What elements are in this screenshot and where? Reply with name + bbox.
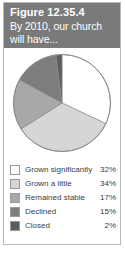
legend-item-label: Remained stable xyxy=(25,193,96,203)
legend-item-value: 2% xyxy=(96,221,116,231)
legend-swatch-icon xyxy=(10,179,20,189)
legend-item-label: Grown significantly xyxy=(25,165,96,175)
legend-swatch-icon xyxy=(10,207,20,217)
legend-item-grown-significantly[interactable]: Grown significantly 32% xyxy=(10,163,116,177)
legend-item-grown-a-little[interactable]: Grown a little 34% xyxy=(10,177,116,191)
legend-item-label: Closed xyxy=(25,221,96,231)
legend-item-value: 17% xyxy=(96,193,116,203)
legend-item-value: 15% xyxy=(96,207,116,217)
legend-item-closed[interactable]: Closed 2% xyxy=(10,219,116,233)
legend-item-declined[interactable]: Declined 15% xyxy=(10,205,116,219)
figure-card: Figure 12.35.4 By 2010, our church will … xyxy=(3,2,121,245)
pie-chart xyxy=(11,52,113,154)
legend: Grown significantly 32% Grown a little 3… xyxy=(10,163,116,233)
legend-item-remained-stable[interactable]: Remained stable 17% xyxy=(10,191,116,205)
pie-chart-area xyxy=(4,48,120,158)
figure-header: Figure 12.35.4 By 2010, our church will … xyxy=(4,3,120,48)
legend-swatch-icon xyxy=(10,165,20,175)
legend-swatch-icon xyxy=(10,221,20,231)
legend-item-label: Declined xyxy=(25,207,96,217)
figure-number: Figure 12.35.4 xyxy=(10,6,115,19)
legend-item-label: Grown a little xyxy=(25,179,96,189)
figure-subtitle: By 2010, our church will have... xyxy=(10,20,115,45)
legend-item-value: 32% xyxy=(96,165,116,175)
legend-swatch-icon xyxy=(10,193,20,203)
legend-item-value: 34% xyxy=(96,179,116,189)
